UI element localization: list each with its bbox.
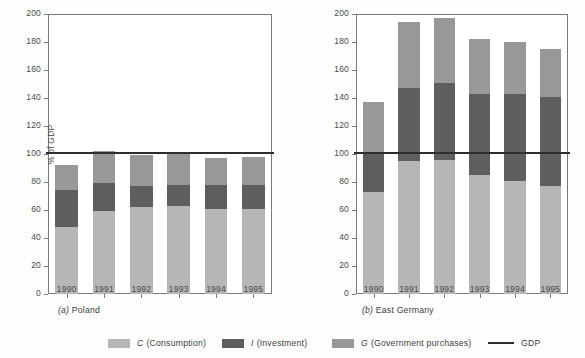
bar-segment-g xyxy=(55,165,77,190)
y-tick-label: 40 xyxy=(31,232,41,242)
bar-segment-i xyxy=(205,185,227,209)
y-tick-label: 80 xyxy=(339,176,349,186)
panel-label: (b) xyxy=(362,305,373,315)
bar-segment-i xyxy=(167,185,189,206)
y-tick-label: 160 xyxy=(26,64,41,74)
bar-segment-i xyxy=(504,94,525,181)
bar-segment-g xyxy=(242,157,264,185)
bar-1991 xyxy=(93,151,115,294)
bar-group xyxy=(356,14,568,294)
y-tick-label: 60 xyxy=(339,204,349,214)
y-tick-label: 120 xyxy=(334,120,349,130)
x-tick-mark xyxy=(104,294,105,298)
bar-1995 xyxy=(540,49,561,294)
bar-1990 xyxy=(55,165,77,294)
bar-segment-g xyxy=(130,155,152,186)
y-tick-label: 60 xyxy=(31,204,41,214)
legend-label: GDP xyxy=(521,338,540,348)
x-tick-mark xyxy=(444,294,445,298)
x-tick-label: 1992 xyxy=(424,284,464,294)
y-tick-label: 0 xyxy=(36,288,41,298)
legend-label: (Investment) xyxy=(257,338,308,348)
x-tick-mark xyxy=(409,294,410,298)
bar-segment-i xyxy=(434,83,455,160)
legend-symbol: C xyxy=(137,338,143,348)
plot-area-east-germany: % of GDP 020406080100120140160180200 xyxy=(356,14,568,294)
bar-segment-c xyxy=(242,209,264,294)
panel-title: Poland xyxy=(72,305,100,315)
bar-segment-g xyxy=(434,18,455,82)
bar-1991 xyxy=(398,22,419,294)
x-tick-mark xyxy=(550,294,551,298)
y-tick-label: 20 xyxy=(31,260,41,270)
bar-segment-g xyxy=(167,154,189,185)
bar-1992 xyxy=(434,18,455,294)
x-tick-label: 1991 xyxy=(389,284,429,294)
y-tick-label: 120 xyxy=(26,120,41,130)
legend-item-i: I(Investment) xyxy=(222,338,307,348)
bar-segment-c xyxy=(205,209,227,294)
x-tick-mark xyxy=(216,294,217,298)
x-tick-mark xyxy=(253,294,254,298)
x-tick-label: 1995 xyxy=(233,284,273,294)
bar-segment-g xyxy=(469,39,490,94)
panel-label: (a) xyxy=(58,305,69,315)
bar-segment-i xyxy=(398,88,419,161)
bar-segment-i xyxy=(242,185,264,209)
bar-segment-i xyxy=(363,154,384,192)
chart-panel-east-germany: % of GDP 020406080100120140160180200 (b)… xyxy=(292,0,585,330)
panel-title: East Germany xyxy=(376,305,434,315)
x-tick-mark xyxy=(515,294,516,298)
x-tick-mark xyxy=(67,294,68,298)
legend-item-gdp: GDP xyxy=(488,338,540,348)
y-tick-label: 40 xyxy=(339,232,349,242)
bar-segment-i xyxy=(130,186,152,207)
x-tick-label: 1992 xyxy=(121,284,161,294)
bar-segment-g xyxy=(398,22,419,88)
bar-segment-c xyxy=(504,181,525,294)
x-tick-label: 1990 xyxy=(354,284,394,294)
y-tick-label: 0 xyxy=(344,288,349,298)
y-tick-mark xyxy=(352,294,356,295)
figure-container: % of GDP 020406080100120140160180200 (a)… xyxy=(0,0,585,358)
bar-segment-i xyxy=(55,190,77,226)
gdp-reference-line xyxy=(46,152,274,155)
bar-segment-c xyxy=(434,160,455,294)
x-tick-label: 1994 xyxy=(196,284,236,294)
bar-segment-i xyxy=(469,94,490,175)
y-tick-label: 200 xyxy=(334,8,349,18)
legend-label: (Government purchases) xyxy=(371,338,471,348)
y-tick-label: 180 xyxy=(334,36,349,46)
bar-segment-g xyxy=(205,158,227,185)
bar-segment-c xyxy=(540,186,561,294)
plot-area-poland: % of GDP 020406080100120140160180200 xyxy=(48,14,272,294)
bar-segment-c xyxy=(469,175,490,294)
bar-1993 xyxy=(167,154,189,294)
bar-segment-i xyxy=(540,97,561,187)
x-tick-mark xyxy=(141,294,142,298)
x-tick-label: 1993 xyxy=(460,284,500,294)
x-tick-label: 1990 xyxy=(47,284,87,294)
bar-segment-c xyxy=(93,211,115,294)
chart-panel-poland: % of GDP 020406080100120140160180200 (a)… xyxy=(0,0,292,330)
bar-segment-c xyxy=(130,207,152,294)
bar-segment-c xyxy=(167,206,189,294)
legend-color-swatch xyxy=(108,339,130,348)
y-tick-label: 20 xyxy=(339,260,349,270)
bar-1995 xyxy=(242,157,264,294)
y-tick-label: 100 xyxy=(334,148,349,158)
legend-color-swatch xyxy=(222,339,244,348)
x-tick-mark xyxy=(179,294,180,298)
y-tick-label: 140 xyxy=(334,92,349,102)
x-tick-mark xyxy=(374,294,375,298)
y-tick-label: 80 xyxy=(31,176,41,186)
y-tick-label: 180 xyxy=(26,36,41,46)
bar-segment-g xyxy=(504,42,525,94)
gdp-reference-line xyxy=(354,152,570,155)
chart-legend: C(Consumption)I(Investment)G(Government … xyxy=(0,332,585,354)
bar-segment-g xyxy=(363,102,384,154)
y-tick-mark xyxy=(44,294,48,295)
x-tick-label: 1994 xyxy=(495,284,535,294)
bar-1990 xyxy=(363,102,384,294)
x-tick-mark xyxy=(480,294,481,298)
